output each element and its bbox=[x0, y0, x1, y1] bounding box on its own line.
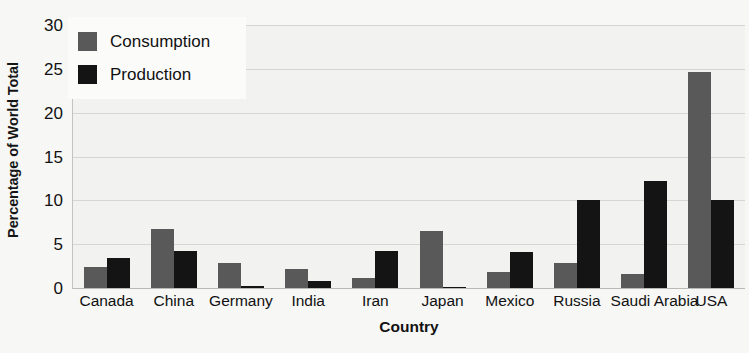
x-tick-label: Canada bbox=[73, 291, 140, 311]
x-tick-label: Germany bbox=[207, 291, 274, 311]
x-tick-label: Saudi Arabia bbox=[611, 291, 678, 311]
bar-production-japan bbox=[443, 287, 466, 288]
bar-group bbox=[342, 25, 409, 288]
x-tick-label: Iran bbox=[342, 291, 409, 311]
legend-entry-consumption: Consumption bbox=[78, 25, 240, 58]
bar-consumption-germany bbox=[218, 263, 241, 288]
bar-production-iran bbox=[375, 251, 398, 288]
bar-production-mexico bbox=[510, 252, 533, 288]
bar-consumption-saudi-arabia bbox=[621, 274, 644, 288]
bar-production-usa bbox=[711, 200, 734, 288]
bar-group bbox=[543, 25, 610, 288]
bar-consumption-india bbox=[285, 269, 308, 288]
y-axis-title: Percentage of World Total bbox=[0, 0, 26, 300]
x-tick-label: China bbox=[140, 291, 207, 311]
bar-consumption-canada bbox=[84, 267, 107, 288]
chart-legend: Consumption Production bbox=[68, 17, 246, 99]
legend-entry-production: Production bbox=[78, 58, 240, 91]
bar-production-russia bbox=[577, 200, 600, 288]
bar-group bbox=[275, 25, 342, 288]
bar-production-china bbox=[174, 251, 197, 288]
x-tick-label: Japan bbox=[409, 291, 476, 311]
y-tick-label: 20 bbox=[44, 104, 63, 121]
y-tick-label: 10 bbox=[44, 192, 63, 209]
x-axis-line bbox=[73, 288, 745, 289]
y-axis-tick-labels: 051015202530 bbox=[26, 0, 68, 300]
bar-consumption-usa bbox=[688, 72, 711, 288]
y-axis-title-text: Percentage of World Total bbox=[5, 62, 21, 238]
x-tick-label: India bbox=[275, 291, 342, 311]
bar-production-india bbox=[308, 281, 331, 288]
bar-chart-figure: Percentage of World Total 051015202530 C… bbox=[0, 0, 749, 353]
y-tick-label: 30 bbox=[44, 17, 63, 34]
bar-group bbox=[678, 25, 745, 288]
y-tick-label: 0 bbox=[54, 280, 63, 297]
x-tick-label: Russia bbox=[543, 291, 610, 311]
bar-group bbox=[476, 25, 543, 288]
legend-label-consumption: Consumption bbox=[110, 33, 210, 50]
bar-consumption-mexico bbox=[487, 272, 510, 288]
x-tick-label: USA bbox=[678, 291, 745, 311]
y-tick-label: 15 bbox=[44, 148, 63, 165]
x-tick-label: Mexico bbox=[476, 291, 543, 311]
legend-label-production: Production bbox=[110, 66, 191, 83]
bar-production-saudi-arabia bbox=[644, 181, 667, 288]
bar-production-canada bbox=[107, 258, 130, 288]
x-axis-tick-labels: CanadaChinaGermanyIndiaIranJapanMexicoRu… bbox=[73, 291, 745, 317]
legend-swatch-production-icon bbox=[78, 65, 97, 84]
bar-consumption-russia bbox=[554, 263, 577, 288]
y-tick-label: 25 bbox=[44, 60, 63, 77]
bar-group bbox=[611, 25, 678, 288]
bar-consumption-japan bbox=[420, 231, 443, 288]
bar-consumption-china bbox=[151, 229, 174, 288]
legend-swatch-consumption-icon bbox=[78, 32, 97, 51]
bar-consumption-iran bbox=[352, 278, 375, 288]
y-tick-label: 5 bbox=[54, 236, 63, 253]
x-axis-title: Country bbox=[73, 318, 745, 336]
bar-production-germany bbox=[241, 286, 264, 288]
bar-group bbox=[409, 25, 476, 288]
